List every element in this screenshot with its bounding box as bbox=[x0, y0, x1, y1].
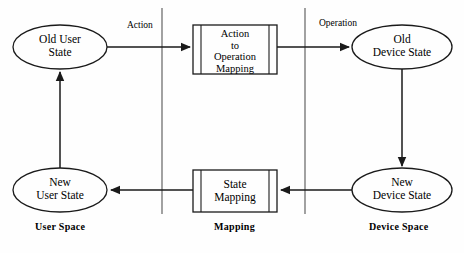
diagram-canvas: Old User State Action to Operation Mappi… bbox=[0, 0, 464, 253]
action-to-operation-mapping-box bbox=[193, 25, 277, 74]
state-mapping-box bbox=[193, 170, 277, 212]
connector-arrows bbox=[60, 47, 402, 190]
new-device-state-ellipse bbox=[352, 168, 452, 212]
space-dividers bbox=[162, 8, 305, 214]
edge-label-operation: Operation bbox=[319, 18, 357, 29]
edge-label-action: Action bbox=[127, 20, 153, 31]
space-label-device-space: Device Space bbox=[369, 221, 428, 233]
node-shapes bbox=[13, 25, 452, 212]
old-device-state-ellipse bbox=[352, 25, 452, 69]
new-user-state-ellipse bbox=[13, 168, 107, 212]
space-label-mapping: Mapping bbox=[214, 221, 255, 233]
space-label-user-space: User Space bbox=[35, 221, 85, 233]
old-user-state-ellipse bbox=[13, 25, 107, 69]
diagram-vector-layer bbox=[0, 0, 464, 253]
